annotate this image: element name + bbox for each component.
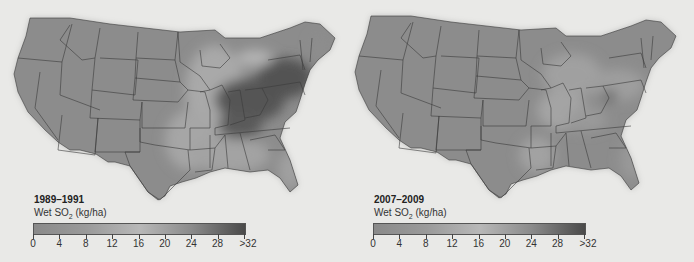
- colorbar-tick-label: 0: [30, 238, 36, 249]
- colorbar-tick-label: 20: [499, 238, 510, 249]
- variable-unit: (kg/ha): [73, 207, 107, 218]
- colorbar-tick-label: 12: [447, 238, 458, 249]
- colorbar-tick-label: 8: [423, 238, 429, 249]
- colorbar-tick-label: >32: [580, 238, 597, 249]
- colorbar-tick-label: 28: [212, 238, 223, 249]
- colorbar-tick-label: 24: [526, 238, 537, 249]
- legend-variable-label: Wet SO2 (kg/ha): [374, 207, 447, 220]
- colorbar-tick-label: 12: [107, 238, 118, 249]
- variable-unit: (kg/ha): [413, 207, 447, 218]
- map-panel-2007-2009: 2007–2009 Wet SO2 (kg/ha) 0481216202428>…: [347, 0, 694, 262]
- legend-period-title: 1989–1991: [34, 194, 84, 205]
- colorbar-tick-label: 0: [370, 238, 376, 249]
- variable-name: Wet SO: [34, 207, 69, 218]
- colorbar-tick-label: 16: [473, 238, 484, 249]
- colorbar-tick-label: 28: [552, 238, 563, 249]
- legend-period-title: 2007–2009: [374, 194, 424, 205]
- colorbar-tick-label: 4: [397, 238, 403, 249]
- colorbar-tick-label: 24: [186, 238, 197, 249]
- map-panel-1989-1991: 1989–1991 Wet SO2 (kg/ha) 0481216202428>…: [0, 0, 347, 262]
- colorbar-tick-label: 16: [133, 238, 144, 249]
- colorbar-tick-label: 20: [159, 238, 170, 249]
- colorbar-tick-label: 8: [83, 238, 89, 249]
- legend-variable-label: Wet SO2 (kg/ha): [34, 207, 107, 220]
- colorbar-tick-label: >32: [240, 238, 257, 249]
- variable-name: Wet SO: [374, 207, 409, 218]
- colorbar-tick-label: 4: [57, 238, 63, 249]
